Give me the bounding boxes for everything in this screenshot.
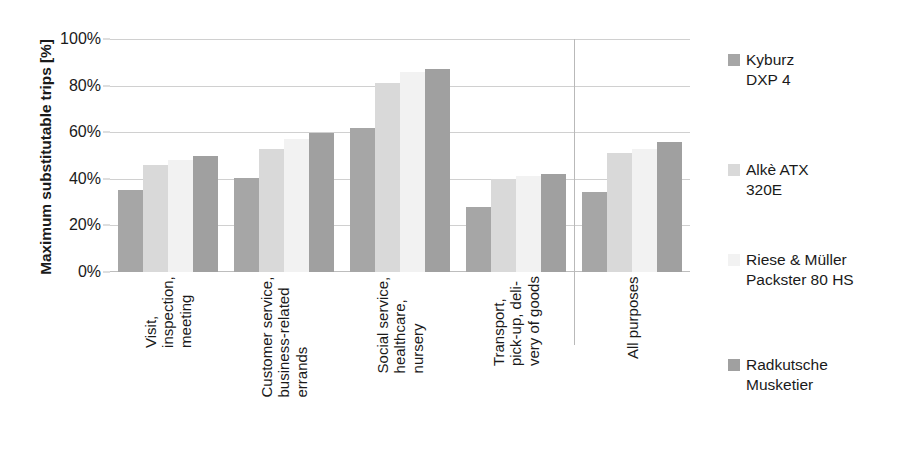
plot-area: 0%20%40%60%80%100% [110,39,690,272]
y-axis-tick-label: 80% [69,77,101,95]
legend-label: Radkutsche Musketier [746,355,828,395]
y-axis-tick [103,225,110,226]
x-axis-label-line: inspection, [159,276,176,348]
x-axis-label-cell: All purposes [574,276,690,456]
x-axis-label-line: business-related [275,276,292,397]
bar [118,190,143,272]
bar [516,176,541,272]
x-axis-label: All purposes [623,276,640,359]
bar [309,133,334,272]
x-axis-label: Visit,inspection,meeting [142,276,194,348]
bar [541,174,566,272]
legend-swatch-icon [728,164,740,176]
y-axis-title: Maximum substitutable trips [%] [37,27,55,287]
x-axis-label-line: Customer service, [258,276,275,397]
bar-group [342,39,458,272]
y-axis-tick [103,178,110,179]
bar-group [574,39,690,272]
bar [284,139,309,272]
bar [400,72,425,272]
legend-item[interactable]: Alkè ATX 320E [728,160,809,200]
bar [607,153,632,272]
bar [193,156,218,273]
bar [582,192,607,272]
x-axis-label-cell: Transport,pick-up, deli-very of goods [458,276,574,456]
bar-group [110,39,226,272]
bar [350,128,375,272]
bar-groups [110,39,690,272]
x-axis-label: Customer service,business-relatederrands [258,276,310,397]
bar [143,165,168,272]
bar [375,83,400,272]
legend-label: Kyburz DXP 4 [746,50,794,90]
bar-group [458,39,574,272]
x-axis-labels: Visit,inspection,meetingCustomer service… [110,276,690,456]
legend-label: Riese & Müller Packster 80 HS [746,250,854,290]
bar [491,179,516,272]
legend-swatch-icon [728,254,740,266]
x-axis-label: Social service,healthcare,nursery [374,276,426,373]
x-axis-label-line: Social service, [374,276,391,373]
bar [466,207,491,272]
bar [234,178,259,272]
x-axis-label: Transport,pick-up, deli-very of goods [490,276,542,366]
y-axis-tick-label: 0% [78,263,101,281]
y-axis-tick-label: 100% [60,30,101,48]
legend-swatch-icon [728,54,740,66]
y-axis-tick [103,132,110,133]
y-axis-tick [103,272,110,273]
bar [259,149,284,272]
y-axis-tick-label: 40% [69,170,101,188]
x-axis-label-cell: Social service,healthcare,nursery [342,276,458,456]
legend-item[interactable]: Riese & Müller Packster 80 HS [728,250,854,290]
y-axis-tick [103,39,110,40]
bar-chart: Maximum substitutable trips [%] 0%20%40%… [0,0,920,462]
x-axis-label-line: Transport, [490,276,507,366]
x-axis-label-line: errands [293,276,310,397]
x-axis-label-cell: Visit,inspection,meeting [110,276,226,456]
x-axis-label-line: All purposes [623,276,640,359]
legend-label: Alkè ATX 320E [746,160,809,200]
x-axis-label-line: pick-up, deli- [507,276,524,366]
y-axis-tick-label: 60% [69,123,101,141]
bar [425,69,450,272]
x-axis-label-line: healthcare, [391,276,408,373]
legend-swatch-icon [728,359,740,371]
bar [168,160,193,272]
y-axis-tick [103,85,110,86]
legend-item[interactable]: Radkutsche Musketier [728,355,828,395]
x-axis-label-line: meeting [177,276,194,348]
x-axis-label-line: nursery [409,276,426,373]
x-axis-label-line: Visit, [142,276,159,348]
bar-group [226,39,342,272]
x-axis-label-line: very of goods [525,276,542,366]
y-axis-tick-label: 20% [69,216,101,234]
bar [657,142,682,272]
bar [632,149,657,272]
x-axis-label-cell: Customer service,business-relatederrands [226,276,342,456]
legend-item[interactable]: Kyburz DXP 4 [728,50,794,90]
